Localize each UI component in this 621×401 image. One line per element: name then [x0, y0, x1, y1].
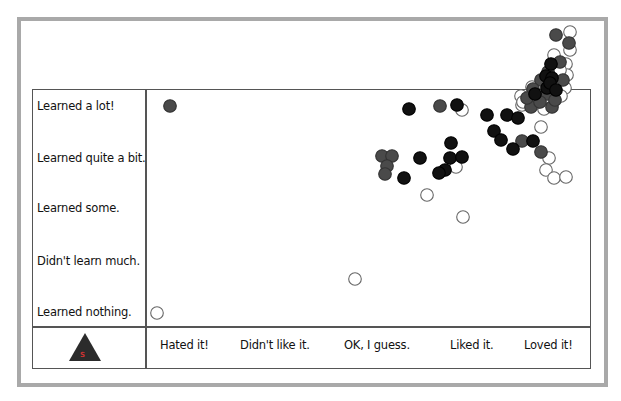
- data-point-black: [444, 152, 457, 165]
- data-point-black: [414, 152, 427, 165]
- data-point-open: [535, 121, 548, 134]
- data-point-black: [451, 99, 464, 112]
- data-point-open: [151, 307, 164, 320]
- data-point-black: [495, 134, 508, 147]
- data-point-black: [445, 137, 458, 150]
- data-point-open: [421, 189, 434, 202]
- data-point-black: [527, 135, 540, 148]
- data-point-black: [545, 58, 558, 71]
- data-point-dark-gray: [379, 168, 392, 181]
- data-point-black: [512, 112, 525, 125]
- data-point-open: [349, 273, 362, 286]
- data-point-open: [560, 171, 573, 184]
- data-point-dark-gray: [550, 29, 563, 42]
- data-point-black: [456, 151, 469, 164]
- data-point-open: [457, 211, 470, 224]
- data-point-black: [507, 143, 520, 156]
- data-point-black: [550, 84, 563, 97]
- data-point-black: [529, 88, 542, 101]
- scatter-plot: [0, 0, 621, 401]
- data-point-dark-gray: [164, 100, 177, 113]
- data-point-dark-gray: [563, 37, 576, 50]
- data-point-black: [403, 103, 416, 116]
- data-point-black: [398, 172, 411, 185]
- data-point-dark-gray: [535, 146, 548, 159]
- data-point-black: [481, 109, 494, 122]
- data-point-black: [433, 167, 446, 180]
- data-point-open: [548, 172, 561, 185]
- data-point-dark-gray: [434, 100, 447, 113]
